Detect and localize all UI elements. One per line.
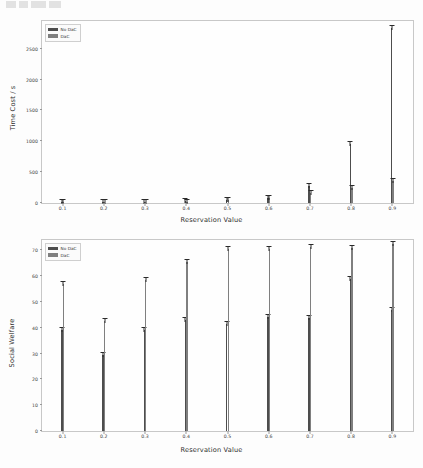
x-axis-tick-label: 0.4 <box>182 434 190 439</box>
legend-label-no-dac: No DaC <box>61 27 77 32</box>
error-bar-cap <box>185 259 190 260</box>
legend-label-dac: DaC <box>61 34 70 39</box>
x-axis-tick-mark <box>62 431 63 434</box>
legend-item-no-dac: No DaC <box>48 27 77 32</box>
y-axis-tick-label: 2500 <box>26 46 38 51</box>
error-bar-cap <box>391 178 396 179</box>
bar-dac <box>104 21 105 203</box>
social-welfare-plot-frame: 0102030405060700.10.20.30.40.50.60.70.80… <box>41 239 414 432</box>
y-axis-tick-label: 1500 <box>26 108 38 113</box>
error-bar-cap <box>308 244 313 245</box>
x-axis-tick-label: 0.5 <box>224 206 232 211</box>
social-welfare-legend: No DaC DaC <box>45 243 81 261</box>
bar-group <box>372 240 413 431</box>
error-bar-cap <box>391 241 396 242</box>
legend-swatch-no-dac-icon <box>48 247 58 251</box>
y-axis-tick-label: 10 <box>32 403 38 408</box>
x-axis-tick-label: 0.5 <box>224 434 232 439</box>
x-axis-tick-label: 0.3 <box>141 434 149 439</box>
social-welfare-x-axis-label: Reservation Value <box>0 446 423 454</box>
x-axis-tick-mark <box>145 431 146 434</box>
bar-group <box>289 21 330 203</box>
bar-rect <box>228 249 229 431</box>
time-cost-plot-area: 050010001500200025000.10.20.30.40.50.60.… <box>42 21 413 203</box>
bar-group <box>331 21 372 203</box>
x-axis-tick-label: 0.7 <box>306 434 314 439</box>
x-axis-tick-mark <box>268 431 269 434</box>
x-axis-tick-label: 0.8 <box>347 206 355 211</box>
legend-swatch-dac-icon <box>48 253 58 257</box>
bar-rect <box>269 249 270 431</box>
x-axis-tick-mark <box>392 203 393 206</box>
bar-rect <box>310 247 311 431</box>
bar-dac <box>392 240 393 431</box>
figure-page: Time Cost / s Reservation Value 05001000… <box>0 0 423 468</box>
error-bar-cap <box>102 199 107 200</box>
time-cost-plot-frame: 050010001500200025000.10.20.30.40.50.60.… <box>41 20 414 204</box>
error-bar-cap <box>349 185 354 186</box>
social-welfare-y-axis-label: Social Welfare <box>8 293 16 393</box>
bar-dac <box>228 240 229 431</box>
bar-group <box>248 21 289 203</box>
y-axis-tick-label: 0 <box>35 429 38 434</box>
y-axis-tick-label: 70 <box>32 248 38 253</box>
bar-dac <box>186 240 187 431</box>
bar-dac <box>63 21 64 203</box>
x-axis-tick-label: 0.6 <box>265 206 273 211</box>
bar-rect <box>351 248 352 431</box>
social-welfare-figure: Social Welfare Reservation Value 0102030… <box>0 234 423 468</box>
x-axis-tick-label: 0.2 <box>100 206 108 211</box>
x-axis-tick-mark <box>351 203 352 206</box>
bar-dac <box>392 21 393 203</box>
bar-group <box>248 240 289 431</box>
x-axis-tick-label: 0.3 <box>141 206 149 211</box>
error-bar-cap <box>143 277 148 278</box>
error-bar-cap <box>226 246 231 247</box>
error-bar-cap <box>61 281 66 282</box>
y-axis-tick-label: 2000 <box>26 77 38 82</box>
legend-item-no-dac: No DaC <box>48 246 77 251</box>
bar-dac <box>145 21 146 203</box>
bar-rect <box>392 244 393 431</box>
x-axis-tick-mark <box>103 431 104 434</box>
x-axis-tick-mark <box>268 203 269 206</box>
y-axis-tick-label: 40 <box>32 325 38 330</box>
legend-item-dac: DaC <box>48 253 77 258</box>
x-axis-tick-label: 0.4 <box>182 206 190 211</box>
bar-rect <box>186 262 187 431</box>
time-cost-y-axis-label: Time Cost / s <box>9 58 17 158</box>
error-bar-cap <box>308 190 313 191</box>
bar-group <box>83 21 124 203</box>
bar-dac <box>228 21 229 203</box>
error-bar-cap <box>143 199 148 200</box>
time-cost-x-axis-label: Reservation Value <box>0 216 423 224</box>
bar-rect <box>351 188 352 203</box>
error-bar-cap <box>349 245 354 246</box>
bar-group <box>207 240 248 431</box>
legend-label-dac: DaC <box>61 253 70 258</box>
x-axis-tick-mark <box>227 203 228 206</box>
x-axis-tick-mark <box>62 203 63 206</box>
legend-item-dac: DaC <box>48 34 77 39</box>
bar-group <box>289 240 330 431</box>
bar-rect <box>310 193 311 203</box>
bar-dac <box>104 240 105 431</box>
y-axis-tick-label: 0 <box>35 201 38 206</box>
x-axis-tick-mark <box>186 431 187 434</box>
bar-group <box>372 21 413 203</box>
x-axis-tick-mark <box>103 203 104 206</box>
x-axis-tick-mark <box>227 431 228 434</box>
y-axis-tick-label: 20 <box>32 377 38 382</box>
x-axis-tick-mark <box>186 203 187 206</box>
x-axis-tick-mark <box>309 203 310 206</box>
bar-rect <box>63 284 64 431</box>
bar-group <box>42 240 83 431</box>
bar-group <box>124 21 165 203</box>
x-axis-tick-label: 0.7 <box>306 206 314 211</box>
bar-group <box>166 240 207 431</box>
x-axis-tick-mark <box>145 203 146 206</box>
error-bar-cap <box>226 197 231 198</box>
time-cost-legend: No DaC DaC <box>45 24 81 42</box>
y-axis-tick-label: 60 <box>32 274 38 279</box>
x-axis-tick-mark <box>351 431 352 434</box>
